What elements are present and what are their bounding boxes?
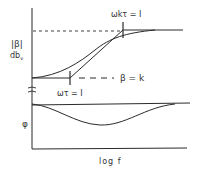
magnitude-unit-label: dbv [10, 51, 23, 61]
x-axis [32, 148, 187, 149]
phase-symbol-label: φ [22, 119, 28, 129]
bode-diagram: |β| dbv ωkτ = I ωτ = I β = k φ log f [0, 0, 199, 174]
phase-zero-line [32, 103, 190, 105]
low-level-label: β = k [120, 73, 145, 83]
phase-curve [32, 104, 175, 125]
magnitude-curve [32, 30, 155, 78]
slope-asymptote [70, 30, 123, 78]
magnitude-symbol-label: |β| [11, 39, 23, 49]
upper-corner-label: ωkτ = I [111, 10, 141, 19]
x-axis-label: log f [99, 157, 122, 166]
lower-corner-label: ωτ = I [57, 89, 83, 98]
